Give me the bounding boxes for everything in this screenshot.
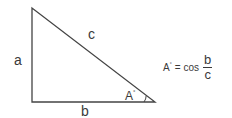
angle-a-letter: A [125,89,133,103]
cosine-formula: A° = cos b c [163,53,212,81]
side-label-a: a [14,53,22,67]
formula-degree-mark: ° [170,61,172,67]
formula-lhs-letter: A [163,62,170,73]
side-label-c: c [88,27,95,41]
triangle-shape [32,8,155,102]
angle-a-label: A° [125,89,135,102]
formula-numerator: b [203,53,212,68]
formula-equals: = [175,62,181,73]
formula-denominator: c [204,68,211,81]
side-label-b: b [81,104,89,118]
degree-mark: ° [133,89,135,95]
angle-a-arc [144,96,146,102]
formula-function: cos [184,62,200,73]
formula-lhs: A° [163,61,172,73]
formula-fraction: b c [203,53,212,81]
